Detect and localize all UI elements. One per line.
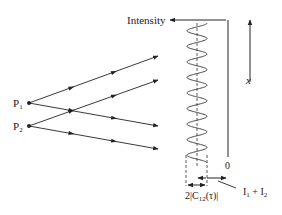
mean-intensity-label: I1 + I2 <box>243 186 268 199</box>
source-p1-label: P1 <box>13 97 23 111</box>
x-axis-label: x <box>245 74 251 86</box>
ray-direction-arrow-icon <box>68 85 75 91</box>
amplitude-label: 2|C12(τ)| <box>185 190 218 203</box>
intensity-label: Intensity <box>127 14 166 26</box>
ray-p2-3 <box>29 126 158 149</box>
mean-intensity-leader <box>218 181 236 188</box>
interference-diagram: Intensity 0 x 2|C12(τ)| I1 + I2 P1 P2 <box>0 0 282 215</box>
ray-direction-arrow-icon <box>111 69 118 75</box>
ray-direction-arrow-icon <box>111 93 118 99</box>
rays <box>29 56 158 149</box>
ray-p1-0 <box>29 56 158 103</box>
ray-p1-1 <box>29 103 158 126</box>
origin-label: 0 <box>225 160 230 171</box>
source-p2-label: P2 <box>13 120 23 134</box>
ray-p2-2 <box>29 80 158 126</box>
